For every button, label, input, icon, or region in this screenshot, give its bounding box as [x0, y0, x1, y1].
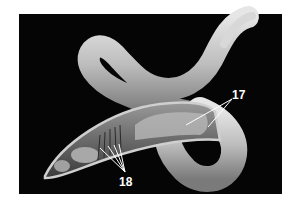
label-17: 17	[232, 88, 245, 102]
earthworm-illustration	[0, 0, 298, 205]
worm-body-back	[89, 17, 248, 112]
label-18: 18	[119, 175, 132, 189]
